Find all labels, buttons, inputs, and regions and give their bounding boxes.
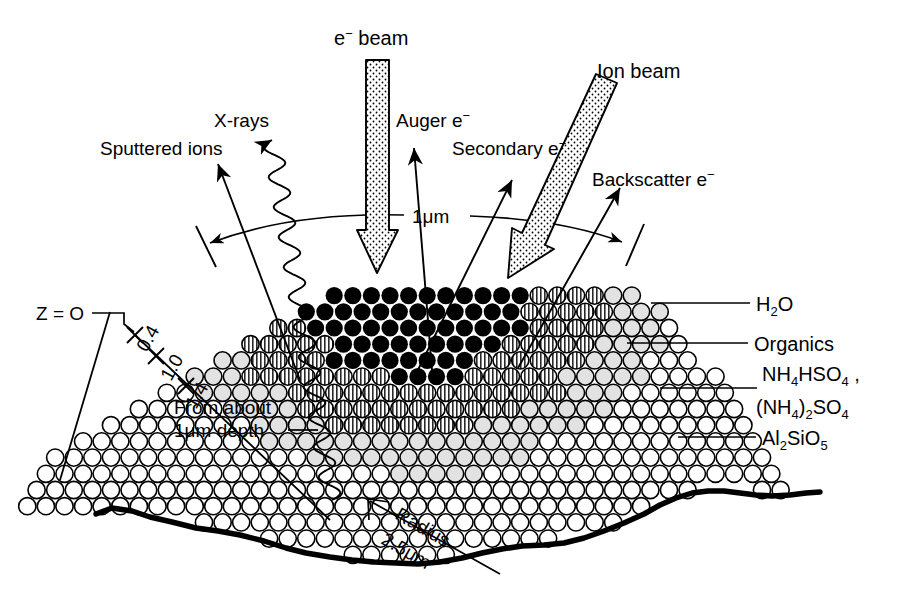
figure-canvas: e− beam Ion beam Sputtered ions X-rays A… bbox=[0, 0, 906, 610]
particle-circle bbox=[549, 481, 566, 498]
particle-circle bbox=[242, 368, 259, 385]
svg-text:From about: From about bbox=[174, 397, 272, 418]
particle-circle bbox=[37, 465, 54, 482]
particle-circle bbox=[19, 498, 36, 515]
particle-circle bbox=[698, 449, 715, 466]
particle-circle bbox=[530, 449, 547, 466]
particle-circle bbox=[270, 481, 287, 498]
particle-circle bbox=[540, 336, 557, 353]
particle-circle bbox=[549, 449, 566, 466]
particle-circle bbox=[642, 417, 659, 434]
label-ion-beam: Ion beam bbox=[597, 60, 680, 82]
particle-circle bbox=[679, 449, 696, 466]
particle-circle bbox=[372, 368, 389, 385]
particle-circle bbox=[558, 498, 575, 515]
particle-circle bbox=[679, 384, 696, 401]
particle-circle bbox=[502, 400, 519, 417]
particle-circle bbox=[465, 368, 482, 385]
particle-circle bbox=[372, 336, 389, 353]
particle-circle bbox=[651, 336, 668, 353]
particle-circle bbox=[753, 449, 770, 466]
particle-circle bbox=[735, 417, 752, 434]
particle-circle bbox=[707, 433, 724, 450]
particle-circle bbox=[558, 465, 575, 482]
particle-circle bbox=[288, 514, 305, 531]
particle-circle bbox=[707, 400, 724, 417]
particle-circle bbox=[577, 336, 594, 353]
particle-circle bbox=[428, 400, 445, 417]
particle-circle bbox=[149, 498, 166, 515]
particle-circle bbox=[651, 368, 668, 385]
particle-circle bbox=[335, 465, 352, 482]
label-depth-1-0: 1.0 bbox=[156, 351, 187, 384]
particle-circle bbox=[130, 400, 147, 417]
particle-circle bbox=[484, 530, 501, 547]
particle-circle bbox=[140, 481, 157, 498]
particle-circle bbox=[391, 336, 408, 353]
particle-circle bbox=[251, 481, 268, 498]
label-e-beam: e− beam bbox=[334, 26, 408, 49]
particle-circle bbox=[716, 384, 733, 401]
particle-circle bbox=[437, 449, 454, 466]
particle-circle bbox=[270, 514, 287, 531]
particle-circle bbox=[633, 465, 650, 482]
particle-circle bbox=[493, 319, 510, 336]
z-zero-leader-line bbox=[92, 313, 134, 332]
particle-circle bbox=[567, 384, 584, 401]
particle-circle bbox=[605, 287, 622, 304]
particle-circle bbox=[660, 319, 677, 336]
particle-circle bbox=[512, 481, 529, 498]
particle-circle bbox=[419, 352, 436, 369]
particle-circle bbox=[363, 449, 380, 466]
particle-circle bbox=[223, 498, 240, 515]
particle-circle bbox=[400, 449, 417, 466]
particle-circle bbox=[363, 481, 380, 498]
particle-circle bbox=[270, 352, 287, 369]
particle-circle bbox=[502, 465, 519, 482]
svg-text:Al2SiO5: Al2SiO5 bbox=[762, 427, 828, 453]
particle-circle bbox=[623, 481, 640, 498]
particle-circle bbox=[409, 336, 426, 353]
particle-circle bbox=[381, 384, 398, 401]
particle-circle bbox=[493, 417, 510, 434]
particle-circle bbox=[307, 481, 324, 498]
particle-circle bbox=[307, 449, 324, 466]
particle-circle bbox=[242, 498, 259, 515]
particle-circle bbox=[558, 336, 575, 353]
particle-circle bbox=[474, 384, 491, 401]
particle-circle bbox=[688, 433, 705, 450]
particle-circle bbox=[140, 449, 157, 466]
particle-circle bbox=[447, 498, 464, 515]
particle-circle bbox=[484, 368, 501, 385]
particle-circle bbox=[465, 433, 482, 450]
particle-circle bbox=[660, 384, 677, 401]
particle-circle bbox=[437, 352, 454, 369]
particle-circle bbox=[409, 303, 426, 320]
particle-circle bbox=[567, 514, 584, 531]
particle-circle bbox=[651, 465, 668, 482]
particle-circle bbox=[447, 336, 464, 353]
particle-circle bbox=[642, 449, 659, 466]
particle-circle bbox=[381, 481, 398, 498]
arc-tick-left bbox=[196, 226, 216, 267]
particle-circle bbox=[586, 481, 603, 498]
particle-circle bbox=[512, 449, 529, 466]
particle-circle bbox=[214, 481, 231, 498]
particle-circle bbox=[149, 465, 166, 482]
particle-circle bbox=[391, 368, 408, 385]
particle-circle bbox=[474, 352, 491, 369]
particle-circle bbox=[400, 384, 417, 401]
particle-circle bbox=[447, 400, 464, 417]
particle-circle bbox=[47, 481, 64, 498]
particle-circle bbox=[595, 498, 612, 515]
particle-circle bbox=[577, 465, 594, 482]
particle-circle bbox=[326, 417, 343, 434]
particle-circle bbox=[474, 417, 491, 434]
svg-text:1.0: 1.0 bbox=[156, 351, 187, 384]
particle-circle bbox=[530, 417, 547, 434]
particle-circle bbox=[456, 514, 473, 531]
particle-circle bbox=[381, 417, 398, 434]
svg-text:e− beam: e− beam bbox=[334, 26, 408, 49]
particle-circle bbox=[270, 384, 287, 401]
particle-circle bbox=[540, 465, 557, 482]
